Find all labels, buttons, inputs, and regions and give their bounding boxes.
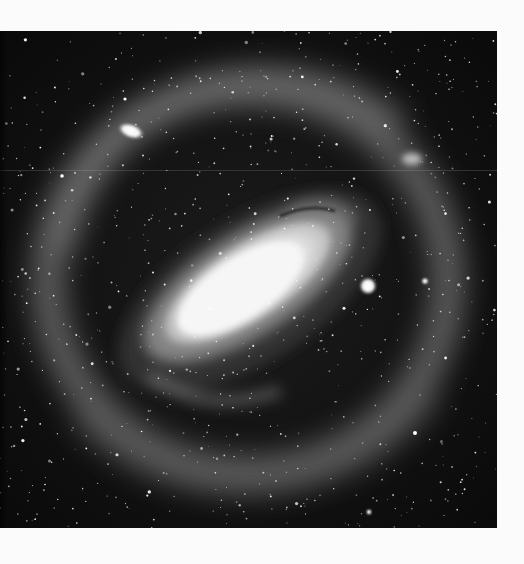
page: Barred spiral galaxy surrounded by a fai… (0, 0, 524, 564)
star-medium (422, 278, 427, 283)
galaxy-photograph (0, 31, 497, 528)
image-alt-text: Barred spiral galaxy surrounded by a fai… (0, 532, 497, 560)
scan-line-artifact (0, 170, 497, 171)
star-medium (413, 431, 417, 435)
star-medium (367, 510, 371, 514)
star-medium (123, 97, 126, 100)
scan-edge-shadow (0, 31, 8, 528)
galaxy-image-svg (0, 31, 497, 528)
bright-star (359, 277, 377, 295)
ring-knot (402, 153, 422, 165)
